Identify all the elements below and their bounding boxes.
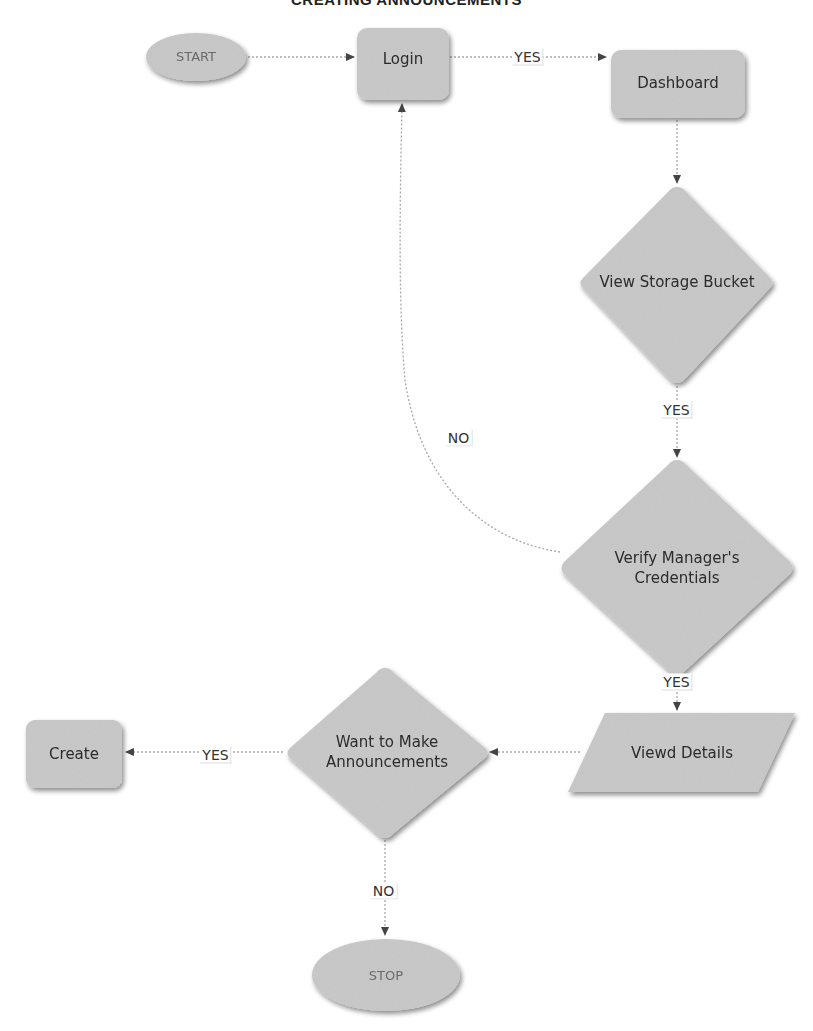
node-verify-credentials[interactable]	[559, 460, 795, 675]
node-dashboard[interactable]	[611, 50, 745, 118]
node-stop[interactable]	[312, 939, 460, 1011]
node-create[interactable]	[26, 720, 122, 788]
edge-label-login-dashboard-yes: YES	[512, 49, 543, 66]
node-view-storage-bucket[interactable]	[578, 187, 775, 383]
node-viewed-details[interactable]	[568, 713, 795, 792]
node-start[interactable]	[146, 33, 246, 81]
edge-label-want-stop-no: NO	[371, 883, 398, 900]
edge-label-verify-details-yes: YES	[661, 674, 692, 691]
node-want-announcements[interactable]	[285, 668, 490, 838]
edge-label-storage-verify-yes: YES	[661, 402, 692, 419]
edge-verify-login	[400, 104, 560, 552]
node-login[interactable]	[357, 28, 449, 100]
edge-label-verify-login-no: NO	[446, 430, 473, 447]
edge-label-want-create-yes: YES	[200, 747, 231, 764]
